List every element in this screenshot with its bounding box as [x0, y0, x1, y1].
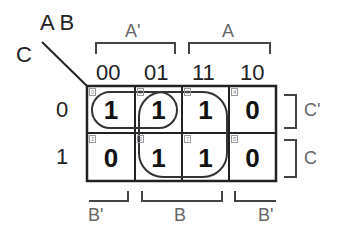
col-header-11: 11	[192, 62, 215, 84]
cell-index: 3	[137, 135, 144, 143]
bracket-label-c: C	[304, 149, 317, 167]
bracket-label-c-prime: C'	[304, 101, 320, 119]
cell-value: 1	[87, 97, 135, 123]
cell-value: 0	[229, 97, 276, 123]
cell-value: 0	[229, 145, 276, 171]
col-header-10: 10	[240, 62, 264, 84]
cell-index: 2	[137, 88, 144, 96]
cell-index: 4	[231, 88, 238, 96]
bracket-label-b-prime-left: B'	[88, 206, 103, 224]
cell-index: 1	[89, 135, 96, 143]
cell-index: 0	[89, 88, 96, 96]
row-vars-label: C	[16, 44, 32, 66]
col-header-00: 00	[96, 62, 120, 84]
cell-value: 1	[135, 97, 182, 123]
cell-value: 1	[135, 145, 182, 171]
bracket-label-a: A	[222, 22, 234, 40]
row-header-0: 0	[56, 99, 68, 121]
bracket-label-b: B	[174, 206, 186, 224]
bracket-label-b-prime-right: B'	[258, 206, 273, 224]
cell-index: 5	[231, 135, 238, 143]
col-vars-label: A B	[40, 12, 74, 34]
row-header-1: 1	[56, 146, 68, 168]
col-header-01: 01	[144, 62, 168, 84]
cell-value: 1	[182, 145, 229, 171]
cell-index: 7	[184, 135, 191, 143]
bracket-label-a-prime: A'	[125, 22, 140, 40]
cell-index: 6	[184, 88, 191, 96]
cell-value: 1	[182, 97, 229, 123]
cell-value: 0	[87, 145, 135, 171]
